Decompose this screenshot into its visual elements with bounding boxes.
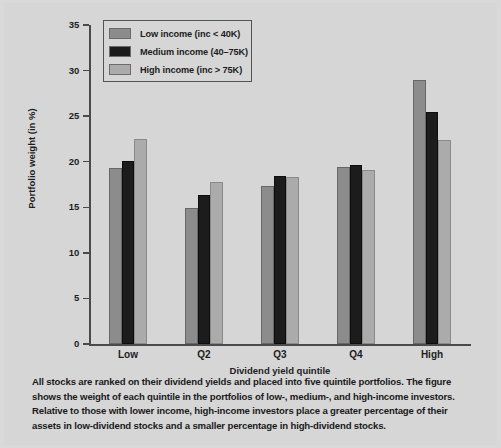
y-axis-tick [83,24,89,26]
y-axis-tick [83,161,89,163]
legend-label: Low income (inc < 40K) [140,29,240,39]
legend-swatch-icon [109,28,131,39]
legend-item: Medium income (40–75K) [109,43,246,60]
bar-low-series-0 [109,168,122,344]
legend-item: High income (inc > 75K) [109,61,246,78]
x-axis-label-low: Low [88,349,168,360]
y-axis-tick-label: 0 [54,338,79,349]
bar-q3-series-2 [286,177,299,344]
y-axis-tick-label-wrap: 30 [54,65,79,77]
bar-q2-series-0 [185,208,198,344]
chart-legend: Low income (inc < 40K)Medium income (40–… [103,20,252,82]
y-axis-tick-label: 5 [54,292,79,303]
y-axis-tick-label: 10 [54,247,79,258]
y-axis-tick [83,115,89,117]
x-axis-line [89,344,471,346]
legend-label: High income (inc > 75K) [140,65,242,75]
bar-q3-series-1 [274,176,287,344]
y-axis-tick [83,70,89,72]
y-axis-tick-label: 15 [54,201,79,212]
x-axis-label-high: High [392,349,472,360]
x-axis-label-q2: Q2 [164,349,244,360]
bar-low-series-1 [122,161,135,344]
y-axis-tick-label-wrap: 20 [54,156,79,168]
figure-caption: All stocks are ranked on their dividend … [32,375,475,433]
bar-high-series-1 [426,112,439,344]
y-axis-tick [83,207,89,209]
bar-high-series-2 [438,140,451,344]
y-axis-tick [83,252,89,254]
bar-high-series-0 [413,80,426,344]
y-axis-tick-label: 30 [54,65,79,76]
y-axis-tick-label: 20 [54,156,79,167]
figure-plate: 05101520253035 Portfolio weight (in %) L… [4,3,497,445]
y-axis-tick-label-wrap: 0 [54,338,79,350]
y-axis-tick-label-wrap: 15 [54,201,79,213]
bar-chart: 05101520253035 Portfolio weight (in %) L… [4,3,497,371]
bar-q3-series-0 [261,186,274,344]
y-axis-title: Portfolio weight (in %) [26,89,37,229]
y-axis-tick [83,343,89,345]
bar-q4-series-2 [362,170,375,344]
legend-item: Low income (inc < 40K) [109,25,246,42]
y-axis-tick [83,298,89,300]
y-axis-tick-label: 25 [54,110,79,121]
legend-swatch-icon [109,46,131,57]
legend-label: Medium income (40–75K) [140,47,248,57]
y-axis-tick-label-wrap: 35 [54,19,79,31]
bar-q4-series-0 [337,167,350,344]
bar-q4-series-1 [350,165,363,344]
figure-root: 05101520253035 Portfolio weight (in %) L… [0,0,501,448]
y-axis-tick-label-wrap: 10 [54,247,79,259]
x-axis-label-q4: Q4 [316,349,396,360]
legend-swatch-icon [109,64,131,75]
bar-q2-series-2 [210,182,223,344]
y-axis-tick-label-wrap: 5 [54,292,79,304]
y-axis-tick-label-wrap: 25 [54,110,79,122]
bar-low-series-2 [134,139,147,344]
y-axis-tick-label: 35 [54,19,79,30]
bar-q2-series-1 [198,195,211,344]
x-axis-label-q3: Q3 [240,349,320,360]
